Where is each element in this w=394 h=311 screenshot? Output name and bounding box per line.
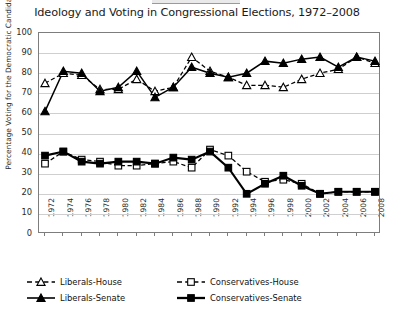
y-tick-label: 30 bbox=[6, 167, 32, 177]
series-line bbox=[45, 150, 375, 194]
data-point bbox=[152, 160, 159, 167]
data-point bbox=[188, 63, 196, 70]
data-point bbox=[280, 172, 287, 179]
data-point bbox=[353, 53, 361, 60]
data-point bbox=[97, 160, 104, 167]
data-point bbox=[41, 107, 49, 114]
y-tick-label: 80 bbox=[6, 67, 32, 77]
legend-item-label: Liberals-Senate bbox=[60, 293, 125, 303]
y-tick-label: 70 bbox=[6, 87, 32, 97]
series-line bbox=[45, 152, 375, 194]
legend-key-open-triangle-up-icon bbox=[26, 276, 56, 288]
data-point bbox=[42, 160, 49, 167]
y-tick-label: 90 bbox=[6, 47, 32, 57]
legend-item[interactable]: Liberals-House bbox=[26, 275, 122, 289]
data-point bbox=[207, 148, 214, 155]
data-point bbox=[225, 152, 232, 159]
data-point bbox=[243, 69, 251, 76]
y-tick-label: 0 bbox=[6, 228, 32, 238]
chart-figure: Ideology and Voting in Congressional Ele… bbox=[0, 0, 394, 311]
data-point bbox=[334, 63, 342, 70]
series-line bbox=[45, 57, 375, 111]
data-point bbox=[115, 158, 122, 165]
y-tick-label: 60 bbox=[6, 107, 32, 117]
data-point bbox=[78, 158, 85, 165]
data-point bbox=[170, 154, 177, 161]
data-point bbox=[41, 79, 49, 86]
legend-key-open-square-icon bbox=[176, 276, 206, 288]
data-point bbox=[133, 158, 140, 165]
legend-marker bbox=[188, 279, 195, 286]
data-point bbox=[60, 148, 67, 155]
data-point bbox=[188, 53, 196, 60]
legend-item[interactable]: Liberals-Senate bbox=[26, 291, 125, 305]
series-liberals-senate bbox=[45, 57, 375, 111]
data-point bbox=[243, 191, 250, 198]
legend-key-filled-triangle-up-icon bbox=[26, 292, 56, 304]
series-conservatives-house bbox=[45, 150, 375, 194]
series-layer bbox=[39, 33, 381, 234]
chart-title: Ideology and Voting in Congressional Ele… bbox=[0, 6, 394, 19]
data-point bbox=[335, 188, 342, 195]
data-point bbox=[225, 164, 232, 171]
data-point bbox=[188, 164, 195, 171]
legend-item[interactable]: Conservatives-House bbox=[176, 275, 299, 289]
data-point bbox=[243, 168, 250, 175]
data-point bbox=[262, 180, 269, 187]
y-tick-label: 10 bbox=[6, 207, 32, 217]
data-point bbox=[243, 81, 251, 88]
plot-area bbox=[38, 32, 380, 233]
data-point bbox=[316, 69, 324, 76]
markers-conservatives-senate bbox=[42, 148, 379, 197]
data-point bbox=[317, 191, 324, 198]
legend-marker bbox=[188, 295, 195, 302]
legend-key-filled-square-icon bbox=[176, 292, 206, 304]
y-tick-label: 50 bbox=[6, 127, 32, 137]
legend-item[interactable]: Conservatives-Senate bbox=[176, 291, 302, 305]
data-point bbox=[42, 152, 49, 159]
data-point bbox=[372, 188, 379, 195]
data-point bbox=[298, 182, 305, 189]
header-rule bbox=[152, 3, 240, 4]
series-conservatives-senate bbox=[45, 152, 375, 194]
legend-item-label: Conservatives-Senate bbox=[210, 293, 302, 303]
legend-item-label: Conservatives-House bbox=[210, 277, 299, 287]
y-tick-label: 20 bbox=[6, 187, 32, 197]
data-point bbox=[133, 67, 141, 74]
y-tick-label: 100 bbox=[6, 27, 32, 37]
data-point bbox=[353, 188, 360, 195]
legend: Liberals-HouseConservatives-HouseLiberal… bbox=[26, 272, 329, 308]
data-point bbox=[188, 156, 195, 163]
legend-item-label: Liberals-House bbox=[60, 277, 122, 287]
y-tick-label: 40 bbox=[6, 147, 32, 157]
